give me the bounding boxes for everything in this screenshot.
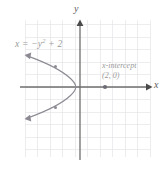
- x-axis-arrowhead: [146, 84, 153, 91]
- x-intercept-annotation-point: (2, 0): [102, 72, 119, 80]
- curve-point-marker: [54, 65, 57, 68]
- curve-arrowhead-lower: [25, 115, 32, 122]
- curve-arrowhead-upper: [25, 53, 32, 60]
- equation-text: x = −y: [15, 39, 42, 49]
- y-axis-label: y: [74, 4, 78, 15]
- y-axis-arrowhead: [77, 20, 84, 27]
- parabola-figure: x = −y2 + 2 y x x-intercept (2, 0): [0, 0, 165, 171]
- x-intercept-point-marker: [103, 85, 107, 89]
- graph-canvas: [0, 0, 165, 171]
- curve-point-marker: [54, 106, 57, 109]
- equation-label: x = −y2 + 2: [15, 38, 62, 50]
- x-intercept-annotation-title: x-intercept: [102, 62, 136, 70]
- x-axis-label: x: [154, 80, 158, 91]
- equation-tail: + 2: [46, 39, 63, 49]
